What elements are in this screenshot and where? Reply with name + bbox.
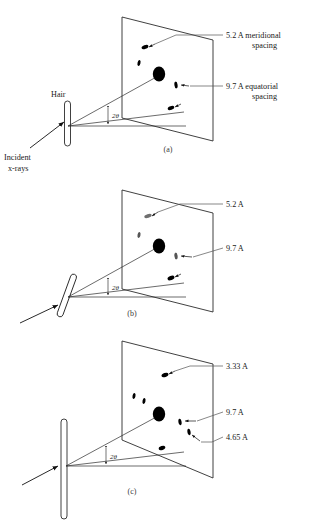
hair-sample-c [61, 419, 67, 519]
label-465-line1-c: 4.65 A [226, 433, 248, 442]
label-meridional-line1-b: 5.2 A [226, 200, 244, 209]
two-theta-label-a: 2θ [112, 112, 120, 120]
two-theta-annotation-c: 2θ [106, 448, 118, 464]
detector-plane-outline-a [122, 17, 213, 141]
direct-beam-spot-c [153, 407, 165, 422]
label-equatorial-b: 9.7 A [226, 244, 244, 253]
incident-label-line2-a: x-rays [8, 164, 28, 173]
hair-rod-a [65, 101, 71, 146]
two-theta-annotation-b: 2θ [108, 280, 120, 295]
hair-rod-c [61, 419, 67, 519]
two-theta-label-c: 2θ [110, 453, 118, 461]
x-ray-diffraction-figure: 2θ 5.2 A meridional spacing 9.7 A eq [0, 0, 326, 526]
incident-label-line1-a: Incident [4, 153, 32, 162]
panel-caption-a: (a) [164, 145, 173, 154]
label-meridional-line1-a: 5.2 A meridional [226, 31, 282, 40]
label-equatorial-line2-a: spacing [252, 92, 277, 101]
panel-b: 2θ 5.2 A 9.7 A (b) [20, 190, 244, 323]
label-meridional-a: 5.2 A meridional spacing [226, 31, 282, 50]
label-meridional-line2-a: spacing [252, 41, 277, 50]
label-meridional-b: 5.2 A [226, 200, 244, 209]
incident-beam-arrow-c [22, 466, 58, 485]
incident-beam-arrow-b [20, 305, 58, 323]
panel-c: 2θ 3.33 A 9.7 A 4.65 A [22, 341, 248, 519]
label-97-c: 9.7 A [226, 408, 244, 417]
ray-diffracted-upper-c [66, 452, 184, 466]
detector-plane-a [122, 17, 213, 141]
label-333-c: 3.33 A [226, 362, 248, 371]
label-equatorial-a: 9.7 A equatorial spacing [226, 82, 279, 101]
label-333-line1-c: 3.33 A [226, 362, 248, 371]
hair-sample-a [65, 101, 71, 146]
incident-beam-c [22, 466, 58, 485]
label-465-c: 4.65 A [226, 433, 248, 442]
label-97-line1-c: 9.7 A [226, 408, 244, 417]
direct-beam-spot-b [153, 239, 165, 254]
incident-beam-a [30, 122, 64, 148]
incident-beam-arrow-a [30, 122, 64, 148]
label-equatorial-line1-a: 9.7 A equatorial [226, 82, 279, 91]
hair-label-a: Hair [51, 90, 66, 99]
label-equatorial-line1-b: 9.7 A [226, 244, 244, 253]
two-theta-label-b: 2θ [112, 284, 120, 292]
two-theta-annotation-a: 2θ [108, 108, 120, 124]
panel-a: 2θ 5.2 A meridional spacing 9.7 A eq [4, 17, 282, 173]
panel-caption-b: (b) [127, 309, 137, 318]
direct-beam-spot-a [153, 67, 165, 82]
hair-sample-b [56, 273, 77, 317]
incident-beam-b [20, 305, 58, 323]
hair-rod-b [56, 273, 77, 317]
panel-caption-c: (c) [128, 487, 137, 496]
